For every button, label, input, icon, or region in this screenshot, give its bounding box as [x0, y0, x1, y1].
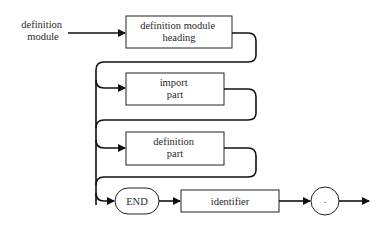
node-end-keyword: END — [115, 188, 159, 214]
node-import-part: import part — [126, 73, 224, 105]
node-definition-module-heading: definition module heading — [126, 16, 232, 48]
node-period-terminal: . — [311, 187, 339, 215]
connector-rail-to-import — [96, 80, 125, 88]
node-identifier: identifier — [181, 190, 279, 212]
connector-heading-to-rail — [96, 33, 256, 205]
connector-rail-to-end — [96, 193, 114, 201]
node-definition-part: definition part — [126, 132, 224, 165]
svg-text:END: END — [126, 196, 148, 207]
svg-text:identifier: identifier — [211, 196, 250, 207]
connector-rail-to-definition — [96, 140, 125, 148]
entry-label: definition module — [21, 19, 64, 42]
svg-text:.: . — [324, 194, 327, 205]
syntax-diagram: definition module definition module head… — [0, 0, 388, 228]
